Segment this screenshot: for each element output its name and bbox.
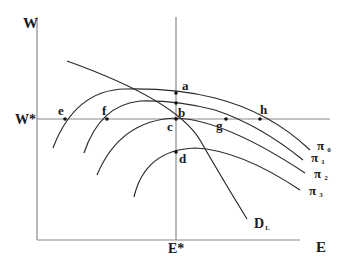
label-pi-2: π2 (314, 166, 328, 182)
y-axis-label: W (23, 15, 38, 31)
label-demand: DL (254, 216, 270, 232)
x-axis-label: E (316, 239, 326, 255)
label-a: a (182, 78, 189, 93)
point-d (174, 150, 178, 154)
w-star-label: W* (15, 112, 36, 127)
label-e: e (58, 103, 64, 118)
label-d: d (179, 151, 187, 166)
label-pi-0: π0 (317, 138, 331, 154)
point-a (174, 91, 178, 95)
isoprofit-diagram: W E W* E* a b c d e f g h π0 π1 π2 π3 DL (0, 0, 346, 264)
label-b: b (178, 105, 185, 120)
isoprofit-curve-3 (134, 148, 300, 197)
label-g: g (216, 118, 223, 133)
isoprofit-curve-2 (97, 118, 305, 175)
e-star-label: E* (168, 241, 184, 256)
point-g (224, 117, 228, 121)
labor-demand-curve (67, 61, 247, 219)
label-f: f (102, 103, 107, 118)
label-pi-3: π3 (309, 183, 323, 199)
point-h (258, 117, 262, 121)
label-c: c (167, 119, 173, 134)
label-h: h (260, 102, 268, 117)
